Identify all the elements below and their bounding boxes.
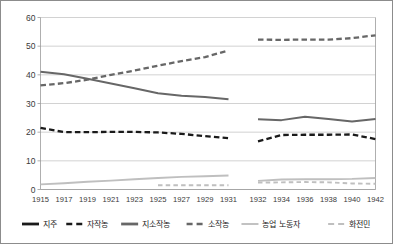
series-line-3 <box>41 50 229 85</box>
x-tick-label: 1915 <box>32 195 49 204</box>
x-tick-label: 1923 <box>126 195 143 204</box>
chart-legend: 지주자작농지소작농소작농농업 노동자화전민 <box>22 219 370 229</box>
gridlines-group <box>41 18 376 190</box>
legend-label-4[interactable]: 농업 노동자 <box>262 220 300 229</box>
y-tick-label: 60 <box>26 13 36 23</box>
y-tick-label: 0 <box>31 185 36 195</box>
line-chart: 0102030405060 19151917191919211923192519… <box>0 0 393 244</box>
y-tick-label: 20 <box>26 127 36 137</box>
x-tick-label: 1919 <box>79 195 96 204</box>
legend-label-5[interactable]: 화전민 <box>349 219 370 229</box>
x-tick-label: 1938 <box>320 195 337 204</box>
x-tick-label: 1936 <box>297 195 314 204</box>
series-line-2 <box>41 72 229 100</box>
y-tick-label: 40 <box>26 70 36 80</box>
legend-label-3[interactable]: 소작농 <box>208 219 229 229</box>
x-tick-label: 1929 <box>197 195 214 204</box>
series-group <box>41 35 376 185</box>
series-line-4 <box>258 178 376 181</box>
series-line-4 <box>41 175 229 184</box>
series-line-1 <box>258 134 376 141</box>
y-axis-tick-labels: 0102030405060 <box>26 13 40 195</box>
x-tick-label: 1940 <box>344 195 361 204</box>
x-tick-label: 1927 <box>173 195 190 204</box>
series-line-1 <box>41 128 229 138</box>
y-tick-label: 10 <box>26 156 36 166</box>
x-tick-label: 1934 <box>273 195 290 204</box>
series-line-3 <box>258 35 376 40</box>
x-tick-label: 1931 <box>220 195 237 204</box>
x-tick-label: 1921 <box>103 195 120 204</box>
legend-label-1[interactable]: 자작농 <box>87 219 108 229</box>
x-axis-tick-labels: 1915191719191921192319251927192919311932… <box>32 195 384 204</box>
x-tick-label: 1925 <box>150 195 167 204</box>
chart-outer-border <box>1 1 393 244</box>
series-line-2 <box>258 117 376 122</box>
legend-label-0[interactable]: 지주 <box>43 220 57 229</box>
x-tick-label: 1932 <box>250 195 267 204</box>
x-tick-label: 1942 <box>367 195 384 204</box>
chart-container: 0102030405060 19151917191919211923192519… <box>0 0 393 244</box>
x-tick-label: 1917 <box>56 195 73 204</box>
series-line-5 <box>258 182 376 184</box>
legend-label-2[interactable]: 지소작농 <box>142 219 170 229</box>
y-tick-label: 50 <box>26 41 36 51</box>
y-tick-label: 30 <box>26 99 36 109</box>
